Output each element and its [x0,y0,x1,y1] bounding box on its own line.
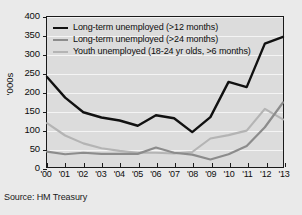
x-tick-label: '00 [40,170,51,179]
legend-item: Long-term unemployed (>24 months) [53,34,251,45]
x-tick-mark [193,163,194,167]
chart-figure: 050100150200250300350400 '000s Long-term… [0,0,302,215]
x-tick-label: '09 [205,170,216,179]
y-tick-label: 100 [24,125,40,135]
x-tick-label: '12 [260,170,271,179]
legend-label: Long-term unemployed (>12 months) [73,23,218,32]
y-tick-label: 350 [24,30,40,40]
x-tick-label: '03 [95,170,106,179]
plot-area: Long-term unemployed (>12 months)Long-te… [46,16,284,168]
x-tick-mark [175,163,176,167]
x-tick-mark [230,163,231,167]
source-note: Source: HM Treasury [4,192,87,202]
x-tick-label: '02 [77,170,88,179]
x-tick-label: '10 [223,170,234,179]
x-tick-mark [212,163,213,167]
x-tick-label: '11 [242,170,252,179]
chart-legend: Long-term unemployed (>12 months)Long-te… [51,20,255,60]
legend-label: Long-term unemployed (>24 months) [73,35,218,44]
y-tick-label: 0 [35,163,40,173]
x-tick-mark [157,163,158,167]
x-tick-label: '01 [59,170,70,179]
y-tick-mark [43,74,47,75]
y-tick-mark [43,36,47,37]
legend-item: Long-term unemployed (>12 months) [53,22,251,33]
x-tick-mark [267,163,268,167]
x-tick-mark [139,163,140,167]
y-tick-label: 50 [30,144,40,154]
x-tick-label: '13 [278,170,289,179]
x-tick-label: '04 [114,170,125,179]
legend-label: Youth unemployed (18-24 yr olds, >6 mont… [73,47,251,56]
x-tick-mark [285,163,286,167]
legend-swatch [53,27,68,29]
legend-swatch [53,51,68,53]
x-tick-label: '07 [169,170,180,179]
x-tick-label: '08 [187,170,198,179]
legend-item: Youth unemployed (18-24 yr olds, >6 mont… [53,46,251,57]
y-tick-mark [43,131,47,132]
x-tick-mark [84,163,85,167]
x-axis: '00'01'02'03'04'05'06'07'08'09'10'11'12'… [46,170,284,184]
y-tick-label: 150 [24,106,40,116]
y-tick-label: 200 [24,87,40,97]
y-tick-label: 300 [24,49,40,59]
x-tick-mark [102,163,103,167]
x-tick-mark [65,163,66,167]
y-tick-mark [43,17,47,18]
y-tick-label: 400 [24,11,40,21]
x-tick-mark [120,163,121,167]
y-tick-mark [43,93,47,94]
y-tick-mark [43,55,47,56]
x-tick-label: '06 [150,170,161,179]
legend-swatch [53,39,68,41]
y-tick-mark [43,150,47,151]
x-tick-mark [248,163,249,167]
x-tick-label: '05 [132,170,143,179]
y-axis-title: '000s [4,73,15,95]
y-tick-mark [43,112,47,113]
x-tick-mark [47,163,48,167]
y-tick-label: 250 [24,68,40,78]
